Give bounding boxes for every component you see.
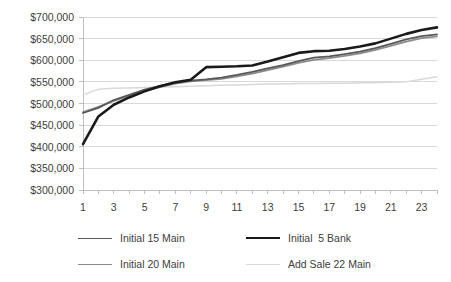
series-line-2 [83, 36, 437, 112]
chart-legend: Initial 15 MainInitial 5 BankInitial 20 … [78, 228, 408, 278]
y-axis-tick-label: $700,000 [30, 12, 74, 23]
x-axis-tick-label: 9 [203, 202, 209, 213]
legend-label: Add Sale 22 Main [288, 259, 371, 270]
x-axis-tick-label: 19 [354, 202, 366, 213]
y-axis-tick-label: $450,000 [30, 120, 74, 131]
y-axis-labels: $700,000$650,000$600,000$550,000$500,000… [0, 0, 80, 200]
y-axis-tick-label: $300,000 [30, 185, 74, 196]
x-axis-labels: 1357911131517192123 [0, 196, 451, 218]
x-axis-tick-label: 3 [111, 202, 117, 213]
legend-swatch [246, 264, 280, 265]
legend-label: Initial 20 Main [120, 259, 185, 270]
y-axis-tick-label: $550,000 [30, 77, 74, 88]
x-axis-tick-label: 23 [416, 202, 428, 213]
x-axis-tick-label: 5 [142, 202, 148, 213]
legend-item[interactable]: Initial 5 Bank [246, 230, 351, 246]
legend-label: Initial 5 Bank [288, 233, 351, 244]
legend-swatch [78, 238, 112, 239]
series-line-0 [83, 34, 437, 113]
legend-label: Initial 15 Main [120, 233, 185, 244]
legend-swatch [246, 237, 280, 239]
x-axis-tick-label: 7 [172, 202, 178, 213]
x-axis-tick-label: 11 [231, 202, 242, 213]
y-axis-tick-label: $500,000 [30, 98, 74, 109]
x-axis-tick-label: 1 [80, 202, 86, 213]
legend-swatch [78, 264, 112, 265]
y-axis-tick-label: $650,000 [30, 33, 74, 44]
x-axis-tick-label: 17 [323, 202, 335, 213]
legend-item[interactable]: Add Sale 22 Main [246, 256, 371, 272]
x-axis-tick-label: 13 [262, 202, 274, 213]
y-axis-tick-label: $400,000 [30, 142, 74, 153]
y-axis-tick-label: $600,000 [30, 55, 74, 66]
x-axis-tick-label: 15 [293, 202, 305, 213]
y-axis-tick-label: $350,000 [30, 163, 74, 174]
legend-item[interactable]: Initial 20 Main [78, 256, 185, 272]
legend-item[interactable]: Initial 15 Main [78, 230, 185, 246]
x-axis-tick-label: 21 [385, 202, 397, 213]
line-chart: $700,000$650,000$600,000$550,000$500,000… [0, 0, 451, 282]
